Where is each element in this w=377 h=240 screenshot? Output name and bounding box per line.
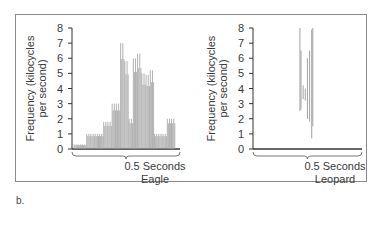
leopard-title: Leopard: [280, 173, 377, 185]
eagle-y-tick-label: 5: [57, 67, 63, 79]
eagle-y-tick-label: 6: [57, 52, 63, 64]
leopard-y-tick-label: 7: [238, 37, 244, 49]
eagle-time-brace: [72, 152, 180, 159]
eagle-y-tick-label: 3: [57, 98, 63, 110]
eagle-y-axis-label: Frequency (kilocycles: [24, 35, 36, 141]
leopard-y-tick-label: 6: [238, 52, 244, 64]
leopard-y-tick-label: 8: [238, 22, 244, 34]
leopard-y-tick-label: 0: [238, 143, 244, 155]
eagle-y-axis-label-2: per second): [36, 59, 48, 117]
leopard-y-tick-label: 2: [238, 113, 244, 125]
eagle-y-tick-label: 4: [57, 83, 63, 95]
panel-label: b.: [16, 195, 24, 206]
leopard-y-tick-label: 1: [238, 128, 244, 140]
leopard-y-axis-label: Frequency (kilocycles: [205, 35, 217, 141]
leopard-time-brace: [253, 152, 362, 159]
eagle-xlabel: 0.5 Seconds: [100, 160, 210, 172]
eagle-y-tick-label: 8: [57, 22, 63, 34]
leopard-y-axis-label-2: per second): [217, 59, 229, 117]
eagle-y-tick-label: 7: [57, 37, 63, 49]
eagle-title: Eagle: [100, 173, 210, 185]
leopard-y-tick-label: 5: [238, 67, 244, 79]
leopard-y-tick-label: 3: [238, 98, 244, 110]
leopard-xlabel: 0.5 Seconds: [280, 160, 377, 172]
eagle-y-tick-label: 2: [57, 113, 63, 125]
leopard-y-tick-label: 4: [238, 83, 244, 95]
eagle-y-tick-label: 1: [57, 128, 63, 140]
eagle-y-tick-label: 0: [57, 143, 63, 155]
